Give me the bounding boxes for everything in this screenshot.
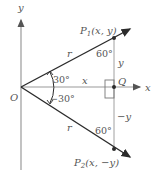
right-angle-marker — [105, 80, 114, 98]
p2-label: P2(x, −y) — [73, 157, 119, 170]
angle-60-upper-label: 60° — [96, 48, 113, 59]
point-p1 — [112, 36, 116, 40]
angle-30-label: 30° — [53, 74, 70, 85]
r-upper-label: r — [67, 48, 73, 59]
x-segment-label: x — [82, 75, 88, 86]
angle-diagram: y x O P1(x, y) P2(x, −y) Q r r x y −y 30… — [0, 0, 156, 174]
x-axis-label: x — [145, 82, 151, 93]
y-axis-label: y — [17, 2, 24, 13]
angle-60-lower-label: 60° — [95, 125, 112, 136]
r-lower-label: r — [67, 122, 73, 133]
point-p2 — [112, 147, 116, 151]
y-segment-label: y — [117, 57, 124, 68]
neg-y-segment-label: −y — [117, 111, 131, 122]
p1-label: P1(x, y) — [79, 25, 117, 38]
point-q — [112, 85, 116, 89]
diagram-stage: y x O P1(x, y) P2(x, −y) Q r r x y −y 30… — [0, 0, 156, 174]
q-label: Q — [118, 76, 126, 87]
angle-neg30-label: −30° — [50, 93, 75, 104]
origin-label: O — [10, 92, 18, 103]
